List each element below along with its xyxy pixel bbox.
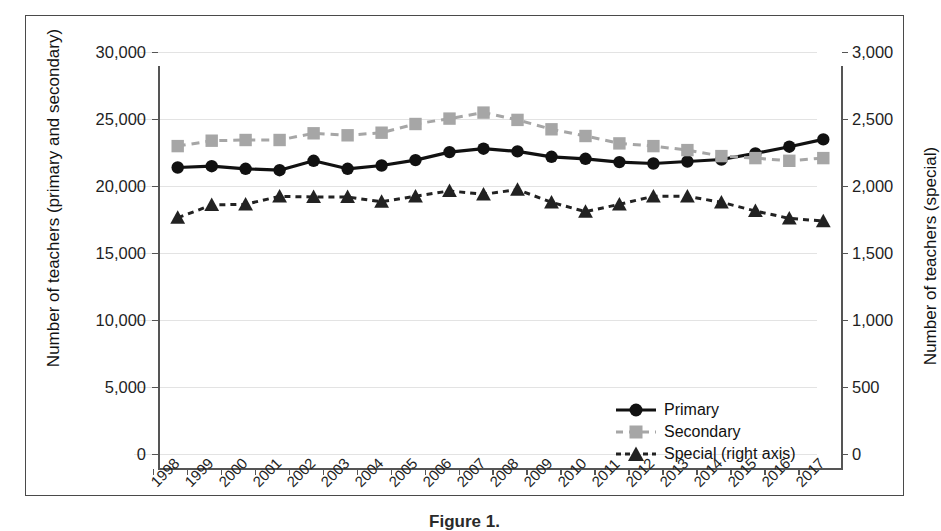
data-point-marker: [714, 195, 729, 209]
y-axis-right-tick: [842, 119, 848, 120]
data-point-marker: [206, 135, 218, 147]
data-point-marker: [172, 140, 184, 152]
data-point-marker: [613, 137, 625, 149]
legend-item-secondary[interactable]: Secondary: [614, 421, 839, 443]
data-point-marker: [817, 152, 829, 164]
y-axis-left-tick: [152, 320, 158, 321]
y-axis-right-tick: [842, 253, 848, 254]
data-point-marker: [206, 160, 218, 172]
data-point-marker: [238, 197, 253, 211]
series-primary: [172, 133, 830, 176]
y-axis-right-tick-label: 1,500: [852, 245, 922, 262]
y-axis-right-tick-label: 3,000: [852, 44, 922, 61]
data-point-marker: [375, 127, 387, 139]
data-point-marker: [204, 198, 219, 212]
data-point-marker: [613, 156, 625, 168]
chart-legend: Primary Secondary Special (right axis): [614, 399, 839, 465]
data-point-marker: [817, 133, 829, 145]
data-point-marker: [172, 161, 184, 173]
data-point-marker: [749, 152, 761, 164]
y-axis-right-tick: [842, 186, 848, 187]
data-point-marker: [443, 112, 455, 124]
primary-line-swatch-icon: [614, 399, 658, 421]
legend-label-special: Special (right axis): [664, 446, 796, 462]
data-point-marker: [409, 118, 421, 130]
data-point-marker: [341, 163, 353, 175]
data-point-marker: [647, 140, 659, 152]
data-point-marker: [273, 134, 285, 146]
data-point-marker: [273, 164, 285, 176]
data-point-marker: [681, 155, 693, 167]
y-axis-left-tick: [152, 253, 158, 254]
data-point-marker: [476, 187, 491, 201]
data-point-marker: [375, 159, 387, 171]
y-axis-left-title: Number of teachers (primary and secondar…: [44, 0, 64, 398]
data-point-marker: [409, 154, 421, 166]
y-axis-left-tick: [152, 387, 158, 388]
data-point-marker: [239, 163, 251, 175]
data-point-marker: [477, 106, 489, 118]
data-point-marker: [680, 189, 695, 203]
y-axis-left-tick: [152, 454, 158, 455]
figure-caption: Figure 1.: [0, 512, 929, 531]
series-secondary: [172, 106, 830, 167]
y-axis-left-tick-label: 0: [34, 446, 146, 463]
y-axis-right-tick-label: 0: [852, 446, 922, 463]
series-special: [170, 182, 830, 227]
legend-item-primary[interactable]: Primary: [614, 399, 839, 421]
data-point-marker: [647, 157, 659, 169]
legend-label-secondary: Secondary: [664, 424, 741, 440]
y-axis-left-tick: [152, 52, 158, 53]
data-point-marker: [511, 145, 523, 157]
data-point-marker: [477, 143, 489, 155]
data-point-marker: [783, 155, 795, 167]
special-line-swatch-icon: [614, 443, 658, 465]
y-axis-right-tick: [842, 454, 848, 455]
y-axis-right-tick: [842, 52, 848, 53]
y-axis-right-tick-label: 2,000: [852, 178, 922, 195]
data-point-marker: [307, 127, 319, 139]
data-point-marker: [545, 151, 557, 163]
data-point-marker: [646, 189, 661, 203]
y-axis-right-tick: [842, 320, 848, 321]
y-axis-left-tick: [152, 186, 158, 187]
data-point-marker: [341, 129, 353, 141]
data-point-marker: [443, 146, 455, 158]
y-axis-right-tick-label: 2,500: [852, 111, 922, 128]
figure-frame: 05,00010,00015,00020,00025,00030,000 050…: [25, 15, 904, 496]
gridline: [134, 52, 817, 53]
data-point-marker: [545, 123, 557, 135]
data-point-marker: [510, 182, 525, 196]
y-axis-left-tick: [152, 119, 158, 120]
y-axis-right-title: Number of teachers (special): [921, 56, 941, 456]
data-point-marker: [442, 184, 457, 198]
y-axis-right-tick-label: 1,000: [852, 312, 922, 329]
y-axis-right-tick: [842, 387, 848, 388]
y-axis-right-tick-label: 500: [852, 379, 922, 396]
secondary-line-swatch-icon: [614, 421, 658, 443]
data-point-marker: [579, 153, 591, 165]
data-point-marker: [307, 155, 319, 167]
legend-item-special[interactable]: Special (right axis): [614, 443, 839, 465]
data-point-marker: [511, 114, 523, 126]
data-point-marker: [783, 141, 795, 153]
data-point-marker: [681, 144, 693, 156]
data-point-marker: [715, 150, 727, 162]
data-point-marker: [579, 130, 591, 142]
data-point-marker: [239, 134, 251, 146]
legend-label-primary: Primary: [664, 402, 719, 418]
